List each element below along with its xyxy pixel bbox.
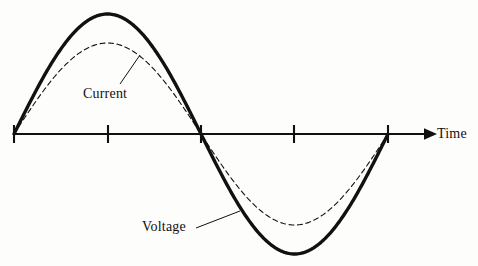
voltage-curve-label: Voltage <box>142 219 186 235</box>
current-curve-label: Current <box>83 86 127 102</box>
voltage-leader-line <box>196 211 240 228</box>
waveform-figure: Time Current Voltage <box>0 0 478 266</box>
waveform-canvas <box>0 0 478 266</box>
time-axis-arrowhead <box>424 128 437 140</box>
current-leader-line <box>120 55 140 84</box>
time-axis-label: Time <box>437 126 467 142</box>
